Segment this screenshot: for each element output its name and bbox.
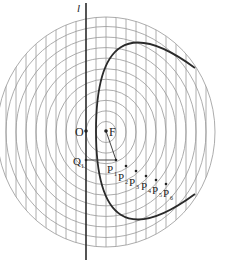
q1-point: [85, 159, 88, 162]
svg-text:4: 4: [148, 188, 151, 194]
svg-text:P: P: [107, 163, 113, 175]
p6-point: [165, 183, 168, 186]
svg-text:5: 5: [159, 192, 162, 198]
parabola-diagram: l O F Q 1 P1 P2 P3 P4 P5 P6: [0, 0, 225, 267]
p-labels: P1 P2 P3 P4 P5 P6: [107, 163, 173, 201]
svg-text:P: P: [118, 171, 124, 183]
p3-point: [135, 170, 138, 173]
p2-label: P2: [118, 171, 128, 185]
p1-label: P1: [107, 163, 117, 177]
p3-label: P3: [129, 176, 139, 190]
svg-text:6: 6: [170, 195, 173, 201]
p5-point: [155, 179, 158, 182]
q1-label: Q 1: [73, 155, 84, 169]
svg-text:P: P: [163, 187, 169, 199]
focus-point: [104, 129, 108, 133]
directrix-label: l: [77, 2, 80, 14]
vertical-grid-lines: [6, 0, 206, 267]
p5-label: P5: [152, 184, 162, 198]
svg-text:P: P: [141, 180, 147, 192]
focus-label: F: [109, 125, 116, 139]
p6-label: P6: [163, 187, 173, 201]
svg-text:1: 1: [81, 163, 84, 169]
p4-label: P4: [141, 180, 151, 194]
concentric-circles: [0, 17, 215, 247]
svg-text:Q: Q: [73, 155, 81, 167]
svg-text:P: P: [152, 184, 158, 196]
origin-point: [84, 129, 88, 133]
p1-point: [115, 159, 118, 162]
origin-label: O: [75, 125, 84, 139]
svg-text:1: 1: [114, 171, 117, 177]
p2-point: [125, 165, 128, 168]
p4-point: [145, 175, 148, 178]
svg-text:P: P: [129, 176, 135, 188]
svg-text:3: 3: [136, 184, 139, 190]
svg-text:2: 2: [125, 179, 128, 185]
